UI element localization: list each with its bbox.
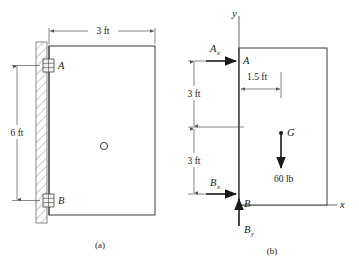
force-by-subscript: y	[250, 230, 255, 238]
centroid-label: G	[287, 127, 295, 138]
door-panel	[49, 46, 155, 215]
dim-label-upper-3ft: 3 ft	[188, 89, 201, 99]
force-by-label: B	[244, 224, 251, 235]
figure-root: 3 ft A B	[0, 0, 359, 264]
hinge-a-label: A	[57, 60, 65, 71]
hinge-b-label: B	[58, 195, 65, 206]
force-ax-label: A	[209, 43, 217, 54]
hinge-b: B	[43, 194, 65, 207]
hinge-a: A	[43, 59, 65, 72]
force-ax: A x A	[206, 43, 250, 66]
dimension-upper-3ft: 3 ft	[184, 61, 244, 127]
dimension-lower-3ft: 3 ft	[184, 129, 206, 194]
statics-figure: 3 ft A B	[0, 0, 359, 264]
dim-label-lower-3ft: 3 ft	[188, 156, 201, 166]
dim-label-height-a: 6 ft	[11, 128, 24, 138]
panel-a: 3 ft A B	[7, 24, 155, 250]
height-dimension-a: 6 ft	[7, 66, 40, 201]
point-a-label: A	[242, 55, 250, 66]
force-bx: B x	[206, 177, 236, 194]
dim-label-1-5ft: 1.5 ft	[247, 72, 267, 82]
dim-label-width-a: 3 ft	[97, 26, 110, 36]
y-axis-label: y	[231, 8, 237, 19]
panel-a-caption: (a)	[95, 240, 105, 250]
width-dimension-a: 3 ft	[49, 24, 155, 44]
force-bx-label: B	[210, 177, 217, 188]
weight-label: 60 lb	[274, 174, 294, 184]
point-b-label: B	[244, 198, 251, 209]
x-axis-label: x	[339, 199, 345, 210]
force-bx-subscript: x	[216, 183, 221, 191]
panel-b: y x A x A 3 ft	[184, 8, 345, 256]
force-ax-subscript: x	[216, 49, 221, 57]
panel-b-caption: (b)	[267, 246, 278, 256]
